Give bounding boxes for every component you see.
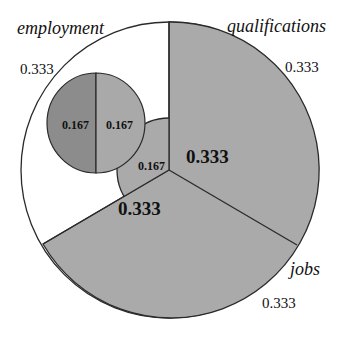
value-jobs: 0.333 [262, 295, 296, 311]
label-jobs: jobs [288, 259, 320, 279]
nested-pie-diagram: employment 0.333 qualifications 0.333 jo… [0, 0, 339, 340]
value-center-disc: 0.167 [138, 159, 165, 173]
value-qualifications: 0.333 [285, 59, 319, 75]
value-employment: 0.333 [20, 61, 54, 77]
label-qualifications: qualifications [227, 16, 326, 36]
value-jobs-inner: 0.333 [118, 198, 161, 219]
value-small-circle-left: 0.167 [62, 118, 89, 132]
value-small-circle-right: 0.167 [106, 118, 133, 132]
value-qualifications-inner: 0.333 [186, 146, 229, 167]
label-employment: employment [17, 18, 105, 38]
